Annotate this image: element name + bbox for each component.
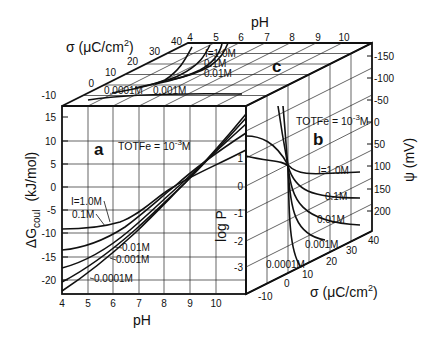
panel-b: 1 0 -1 -2 -3 log P -150 -100 -50 0 50 10… <box>213 43 417 302</box>
panel-a-y-axis-title: ΔGcoul(kJ/mol) <box>23 152 42 248</box>
panel-b-logp-axis-title: log P <box>213 210 229 242</box>
tick-label: 40 <box>171 36 183 47</box>
curve-label: 0.01M <box>122 242 150 253</box>
tick-label: -50 <box>374 95 389 106</box>
tick-label: 10 <box>302 269 314 280</box>
tick-label: -5 <box>47 205 56 216</box>
tick-label: -150 <box>374 51 394 62</box>
tick-label: 4 <box>59 298 65 309</box>
tick-label: -10 <box>42 90 57 101</box>
tick-label: 5 <box>50 159 56 170</box>
tick-label: 10 <box>105 67 117 78</box>
curve-label: 0.001M <box>116 254 149 265</box>
tick-label: 8 <box>161 298 167 309</box>
panel-b-psi-axis-title: ψ (mV) <box>401 138 417 182</box>
tick-label: 40 <box>368 235 380 246</box>
curve-label: 0.0001M <box>94 273 133 284</box>
tick-label: 15 <box>45 112 57 123</box>
panel-b-totfe-annotation: TOTFe = 10-3M <box>296 113 369 127</box>
curve-label: I=1.0M <box>71 196 102 207</box>
tick-label: 50 <box>374 139 386 150</box>
tick-label: 20 <box>127 56 139 67</box>
tick-label: 30 <box>346 245 358 256</box>
tick-label: 10 <box>338 32 350 43</box>
curve-label: 0.1M <box>325 191 347 202</box>
panel-b-curve-labels: I=1.0M 0.1M 0.01M 0.001M 0.0001M <box>266 165 349 270</box>
tick-label: 5 <box>85 298 91 309</box>
tick-label: -15 <box>42 252 57 263</box>
three-panel-3d-diagram: 4 5 6 7 8 9 10 pH -10 0 10 20 30 40 σ (μ… <box>0 0 437 338</box>
tick-label: 7 <box>136 298 142 309</box>
tick-label: -10 <box>258 291 273 302</box>
tick-label: 0 <box>284 278 290 289</box>
tick-label: 6 <box>238 32 244 43</box>
panel-c-curve-labels: I=1.0M 0.1M 0.01M 0.0001M 0.001M <box>104 48 236 96</box>
panel-b-logp-ticks: 1 0 -1 -2 -3 <box>234 153 243 273</box>
curve-label: 0.01M <box>204 68 232 79</box>
tick-label: -2 <box>234 236 243 247</box>
tick-label: -20 <box>42 275 57 286</box>
tick-label: 7 <box>264 32 270 43</box>
tick-label: -1 <box>234 208 243 219</box>
panel-c-ph-axis-title: pH <box>251 14 269 30</box>
panel-a-x-axis-title: pH <box>133 312 151 328</box>
panel-b-sigma-axis-title: σ (μC/cm2) <box>310 283 378 300</box>
tick-label: 9 <box>187 298 193 309</box>
panel-a-totfe-annotation: TOTFe = 10-3M <box>118 138 191 152</box>
panel-a-y-ticks: 15 10 5 0 -5 -10 -15 -20 <box>42 112 57 286</box>
tick-label: 0 <box>374 117 380 128</box>
tick-label: 150 <box>374 184 391 195</box>
tick-label: 0 <box>88 78 94 89</box>
tick-label: 9 <box>315 32 321 43</box>
panel-c: 4 5 6 7 8 9 10 pH -10 0 10 20 30 40 σ (μ… <box>42 14 372 106</box>
panel-c-letter: c <box>272 57 281 76</box>
curve-label: 0.0001M <box>104 85 143 96</box>
panel-b-psi-ticks: -150 -100 -50 0 50 100 150 200 <box>374 51 394 217</box>
tick-label: -10 <box>42 228 57 239</box>
curve-label: 0.1M <box>72 209 94 220</box>
tick-label: 200 <box>374 206 391 217</box>
tick-label: 8 <box>289 32 295 43</box>
tick-label: 0 <box>50 182 56 193</box>
curve-label: 0.001M <box>153 85 186 96</box>
panel-a-letter: a <box>94 140 104 159</box>
panel-b-letter: b <box>313 130 323 149</box>
curve-label: 0.001M <box>305 239 338 250</box>
tick-label: 10 <box>45 136 57 147</box>
tick-label: 20 <box>326 256 338 267</box>
curve-label: I=1.0M <box>318 165 349 176</box>
tick-label: -3 <box>234 262 243 273</box>
panel-c-sigma-axis-title: σ (μC/cm2) <box>66 38 134 55</box>
curve-label: 0.01M <box>317 214 345 225</box>
tick-label: -100 <box>374 73 394 84</box>
panel-b-curves <box>246 106 360 266</box>
tick-label: 1 <box>237 153 243 164</box>
tick-label: 30 <box>149 46 161 57</box>
panel-a-x-ticks: 4 5 6 7 8 9 10 <box>59 298 222 309</box>
tick-label: 5 <box>213 32 219 43</box>
tick-label: 10 <box>210 298 222 309</box>
tick-label: 100 <box>374 161 391 172</box>
panel-c-top-ph-ticks: 4 5 6 7 8 9 10 <box>187 32 350 43</box>
tick-label: 6 <box>110 298 116 309</box>
tick-label: 0 <box>237 181 243 192</box>
tick-label: 4 <box>187 32 193 43</box>
